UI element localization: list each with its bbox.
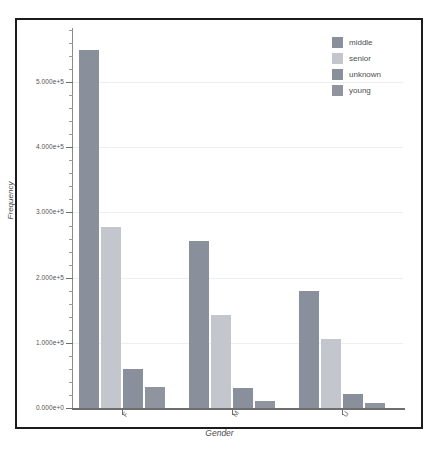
legend-item-middle: middle <box>332 37 381 48</box>
y-axis-tick <box>66 212 73 213</box>
x-axis-title: Gender <box>0 428 439 438</box>
y-axis-tick-label: 5.000e+5 <box>4 78 64 85</box>
bar-young-U <box>365 403 385 408</box>
legend-item-young: young <box>332 85 381 96</box>
bar-senior-M <box>211 315 231 408</box>
bar-middle-M <box>189 241 209 408</box>
legend-swatch-young <box>332 85 343 96</box>
legend-label-senior: senior <box>349 54 371 63</box>
y-axis-tick <box>66 278 73 279</box>
legend: middleseniorunknownyoung <box>332 37 381 96</box>
y-axis-tick <box>66 343 73 344</box>
bar-middle-U <box>299 291 319 408</box>
legend-swatch-middle <box>332 37 343 48</box>
legend-label-middle: middle <box>349 38 373 47</box>
bar-unknown-U <box>343 394 363 408</box>
legend-swatch-senior <box>332 53 343 64</box>
legend-label-young: young <box>349 86 371 95</box>
bar-young-F <box>145 387 165 408</box>
bar-middle-F <box>79 50 99 408</box>
bar-unknown-M <box>233 388 253 408</box>
y-axis-tick <box>66 82 73 83</box>
legend-swatch-unknown <box>332 69 343 80</box>
legend-item-senior: senior <box>332 53 381 64</box>
bar-senior-F <box>101 227 121 408</box>
y-axis-tick-label: 0.000e+0 <box>4 404 64 411</box>
legend-item-unknown: unknown <box>332 69 381 80</box>
y-axis-tick <box>66 147 73 148</box>
y-axis-tick-label: 4.000e+5 <box>4 143 64 150</box>
bar-senior-U <box>321 339 341 408</box>
legend-label-unknown: unknown <box>349 70 381 79</box>
y-axis-tick-label: 2.000e+5 <box>4 274 64 281</box>
y-axis-title: Frequency <box>6 182 15 220</box>
bar-young-M <box>255 401 275 408</box>
y-axis-tick-label: 1.000e+5 <box>4 339 64 346</box>
bar-unknown-F <box>123 369 143 408</box>
